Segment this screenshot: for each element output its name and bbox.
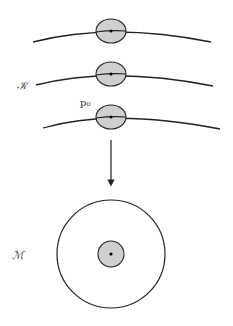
point-p0 [110,116,113,119]
diagram-canvas [0,0,233,326]
label-p0: p₀ [80,97,90,108]
point-top [110,30,113,33]
curve-bottom [43,105,220,129]
point-middle [110,73,113,76]
label-M: ℳ [12,249,24,262]
point-center [109,252,112,255]
curve-top [33,19,211,43]
curve-middle [36,62,213,86]
label-K: 𝒦 [17,79,27,92]
